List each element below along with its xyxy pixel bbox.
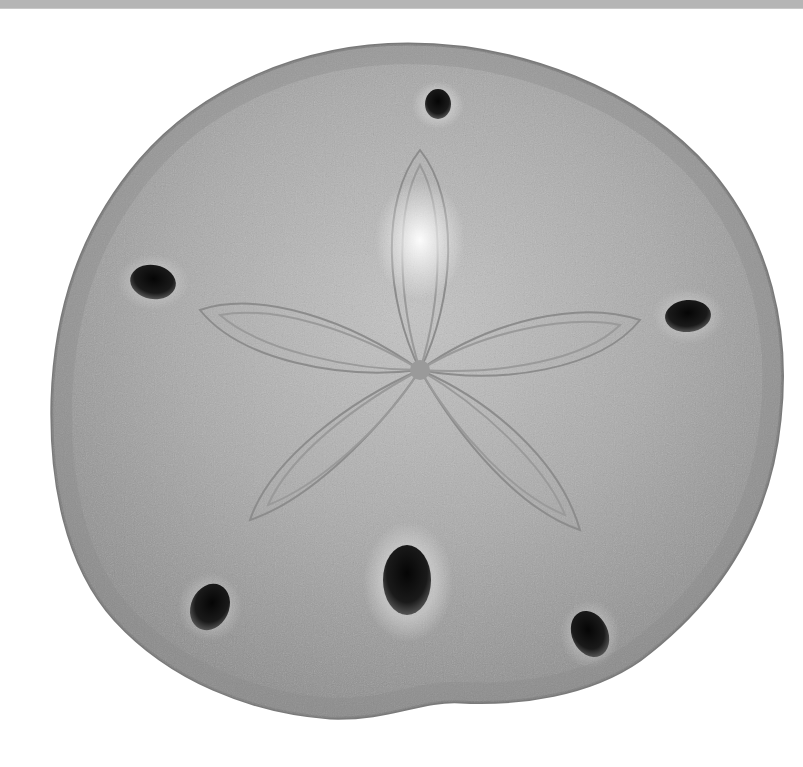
sand-dollar-photo: [0, 0, 803, 767]
light-glare: [375, 180, 465, 300]
hole-bottom-left: [178, 573, 242, 641]
hole-bottom-right: [560, 600, 620, 668]
center-pore: [410, 360, 430, 380]
hole-bottom-center: [363, 522, 453, 642]
hole-top: [412, 81, 464, 129]
hole-right: [652, 288, 724, 344]
hole-left: [117, 254, 189, 310]
